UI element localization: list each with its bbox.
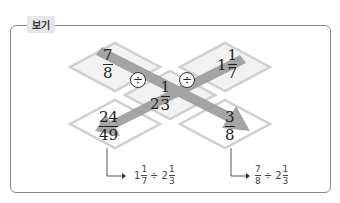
connector-left bbox=[107, 148, 122, 176]
numerator: 1 bbox=[228, 48, 238, 63]
denominator: 3 bbox=[283, 177, 289, 186]
mixed-top-right: 1 17 bbox=[217, 48, 237, 81]
fraction-bottom-right: 38 bbox=[225, 110, 235, 143]
denominator: 7 bbox=[141, 177, 147, 186]
whole: 2 bbox=[150, 95, 160, 113]
denominator: 8 bbox=[225, 128, 235, 143]
denominator: 3 bbox=[161, 98, 171, 113]
whole: 1 bbox=[134, 170, 140, 181]
numerator: 1 bbox=[169, 165, 175, 174]
numerator: 24 bbox=[99, 110, 118, 125]
mixed-center: 2 13 bbox=[150, 80, 170, 113]
whole: 2 bbox=[275, 170, 281, 181]
denominator: 3 bbox=[169, 177, 175, 186]
divide-sign: ÷ bbox=[264, 170, 272, 181]
denominator: 8 bbox=[103, 66, 113, 81]
whole: 2 bbox=[162, 170, 168, 181]
connector-right bbox=[231, 148, 246, 176]
numerator: 7 bbox=[103, 48, 113, 63]
divide-operator-right: ÷ bbox=[179, 72, 195, 88]
divide-sign: ÷ bbox=[150, 170, 158, 181]
example-label: 보기 bbox=[27, 16, 55, 33]
numerator: 1 bbox=[161, 80, 171, 95]
numerator: 1 bbox=[141, 165, 147, 174]
numerator: 3 bbox=[225, 110, 235, 125]
expression-left: 1 17 ÷ 2 13 bbox=[134, 165, 175, 186]
whole: 1 bbox=[217, 56, 227, 74]
denominator: 8 bbox=[255, 177, 261, 186]
expression-right: 78 ÷ 2 13 bbox=[255, 165, 288, 186]
fraction-top-left: 78 bbox=[103, 48, 113, 81]
numerator: 1 bbox=[283, 165, 289, 174]
divide-operator-left: ÷ bbox=[130, 72, 146, 88]
numerator: 7 bbox=[255, 165, 261, 174]
denominator: 49 bbox=[99, 128, 118, 143]
fraction-bottom-left: 2449 bbox=[99, 110, 118, 143]
denominator: 7 bbox=[228, 66, 238, 81]
